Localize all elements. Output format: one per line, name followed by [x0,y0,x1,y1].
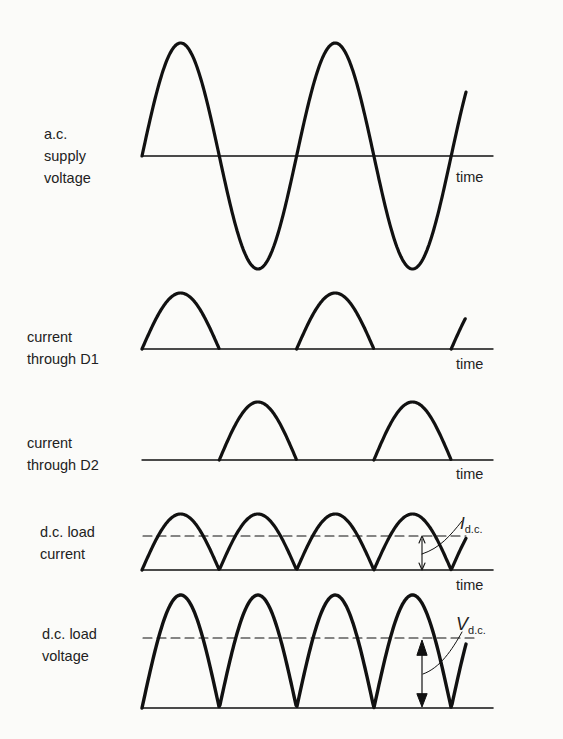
dc-voltage-wave [142,595,466,708]
d1-current-wave [142,293,465,349]
d2-current-wave [219,402,451,460]
rectifier-waveforms-diagram [0,0,563,739]
dc-current-wave [142,514,466,570]
